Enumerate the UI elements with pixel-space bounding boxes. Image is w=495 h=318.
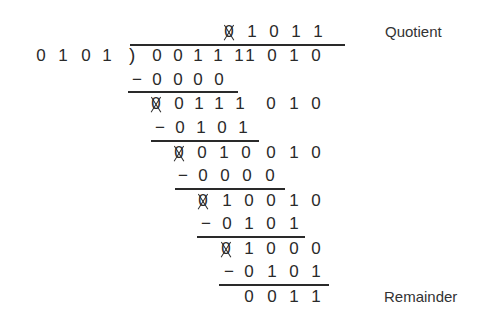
result-digit: 0 bbox=[239, 190, 259, 212]
dividend-digit: 1 bbox=[188, 45, 208, 67]
subtrahend-digit: 0 bbox=[147, 69, 167, 91]
struck-digit: 0 bbox=[216, 238, 236, 260]
minus-sign: − bbox=[127, 69, 147, 91]
subtrahend-digit: 1 bbox=[239, 213, 259, 235]
subtrahend-digit: 0 bbox=[188, 69, 208, 91]
subtrahend-digit: 1 bbox=[191, 117, 211, 139]
struck-digit: 0 bbox=[169, 142, 189, 164]
result-digit: 1 bbox=[189, 93, 209, 115]
step-4-subtract-row: − 0 1 0 1 bbox=[0, 213, 495, 235]
subtrahend-digit: 0 bbox=[193, 165, 213, 187]
quotient-digit: 0 bbox=[264, 21, 284, 43]
result-digit: 0 bbox=[261, 190, 281, 212]
remainder-digit: 1 bbox=[306, 286, 326, 308]
minus-sign: − bbox=[150, 117, 170, 139]
subtrahend-digit: 0 bbox=[217, 213, 237, 235]
dividend-row: 0 1 0 1 ) 0 0 1 1 1 1 0 1 0 bbox=[0, 45, 495, 67]
subtrahend-digit: 0 bbox=[239, 261, 259, 283]
result-digit: 0 bbox=[261, 142, 281, 164]
dividend-digit: 0 bbox=[262, 45, 282, 67]
divisor-digit: 1 bbox=[53, 45, 73, 67]
step-5-subtract-row: − 0 1 0 1 bbox=[0, 261, 495, 283]
remainder-digit: 0 bbox=[239, 286, 259, 308]
result-digit: 0 bbox=[306, 142, 326, 164]
result-digit: 0 bbox=[236, 142, 256, 164]
dividend-digit: 0 bbox=[306, 45, 326, 67]
quotient-digit: 1 bbox=[308, 21, 328, 43]
result-digit: 1 bbox=[284, 142, 304, 164]
result-digit: 1 bbox=[217, 190, 237, 212]
quotient-label: Quotient bbox=[385, 22, 442, 42]
remainder-digit: 0 bbox=[262, 286, 282, 308]
struck-digit: 0 bbox=[193, 190, 213, 212]
result-digit: 1 bbox=[209, 93, 229, 115]
subtrahend-digit: 1 bbox=[233, 117, 253, 139]
dividend-digit: 1 bbox=[284, 45, 304, 67]
step-1-subtract-row: − 0 0 0 0 bbox=[0, 69, 495, 91]
quotient-digit: 1 bbox=[286, 21, 306, 43]
dividend-digit: 1 bbox=[240, 45, 260, 67]
subtrahend-digit: 0 bbox=[168, 69, 188, 91]
step-1-result-row: 0 0 1 1 1 0 1 0 bbox=[0, 93, 495, 115]
result-digit: 0 bbox=[169, 93, 189, 115]
remainder-label: Remainder bbox=[384, 287, 457, 307]
result-digit: 0 bbox=[261, 93, 281, 115]
step-3-subtract-row: − 0 0 0 0 bbox=[0, 165, 495, 187]
result-digit: 0 bbox=[192, 142, 212, 164]
divisor-digit: 0 bbox=[31, 45, 51, 67]
subtrahend-digit: 0 bbox=[215, 165, 235, 187]
result-digit: 1 bbox=[239, 238, 259, 260]
dividend-digit: 1 bbox=[208, 45, 228, 67]
quotient-digit-struck: 0 bbox=[219, 21, 239, 43]
step-2-subtract-row: − 0 1 0 1 bbox=[0, 117, 495, 139]
subtrahend-digit: 0 bbox=[261, 213, 281, 235]
subtrahend-digit: 0 bbox=[260, 165, 280, 187]
dividend-digit: 0 bbox=[147, 45, 167, 67]
dividend-digit: 0 bbox=[168, 45, 188, 67]
subtrahend-digit: 0 bbox=[284, 261, 304, 283]
quotient-digit: 1 bbox=[242, 21, 262, 43]
subtrahend-digit: 0 bbox=[212, 117, 232, 139]
subtrahend-digit: 1 bbox=[262, 261, 282, 283]
result-digit: 0 bbox=[306, 238, 326, 260]
subtrahend-digit: 0 bbox=[237, 165, 257, 187]
remainder-digit: 1 bbox=[284, 286, 304, 308]
binary-long-division-diagram: 0 1 0 1 1 Quotient 0 1 0 1 ) 0 0 1 1 1 1… bbox=[0, 0, 495, 318]
result-digit: 0 bbox=[261, 238, 281, 260]
subtrahend-digit: 1 bbox=[284, 213, 304, 235]
result-digit: 0 bbox=[306, 93, 326, 115]
result-digit: 1 bbox=[284, 190, 304, 212]
subtrahend-digit: 0 bbox=[209, 69, 229, 91]
result-digit: 1 bbox=[214, 142, 234, 164]
division-bracket: ) bbox=[129, 44, 135, 66]
subtrahend-digit: 0 bbox=[170, 117, 190, 139]
result-digit: 0 bbox=[306, 190, 326, 212]
divisor-digit: 1 bbox=[97, 45, 117, 67]
minus-sign: − bbox=[173, 165, 193, 187]
result-digit: 1 bbox=[230, 93, 250, 115]
step-4-result-row: 0 1 0 0 0 bbox=[0, 238, 495, 260]
result-digit: 1 bbox=[284, 93, 304, 115]
step-3-result-row: 0 1 0 0 1 0 bbox=[0, 190, 495, 212]
minus-sign: − bbox=[196, 213, 216, 235]
divisor-digit: 0 bbox=[76, 45, 96, 67]
struck-digit: 0 bbox=[146, 93, 166, 115]
subtrahend-digit: 1 bbox=[306, 261, 326, 283]
result-digit: 0 bbox=[284, 238, 304, 260]
minus-sign: − bbox=[219, 261, 239, 283]
step-2-result-row: 0 0 1 0 0 1 0 bbox=[0, 142, 495, 164]
